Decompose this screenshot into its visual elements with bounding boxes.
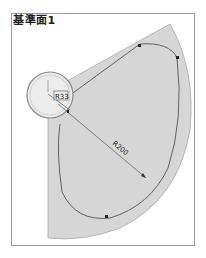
- sector-region: [48, 24, 191, 239]
- control-point-2[interactable]: [176, 56, 179, 59]
- control-point-1[interactable]: [138, 44, 141, 47]
- sketch-canvas[interactable]: R33 R200: [0, 0, 206, 258]
- control-point-4[interactable]: [67, 110, 69, 113]
- control-point-3[interactable]: [105, 215, 108, 218]
- r33-label[interactable]: R33: [55, 93, 69, 101]
